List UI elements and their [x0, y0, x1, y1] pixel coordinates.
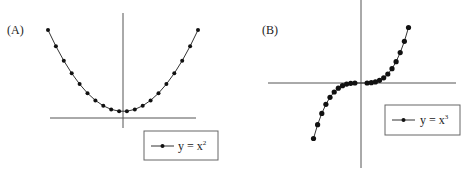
- data-point-marker: [352, 80, 357, 85]
- panel-b-cubic-chart: (B) y = x3: [262, 0, 460, 168]
- data-point-marker: [332, 89, 337, 94]
- data-point-marker: [133, 107, 137, 111]
- data-point-marker: [46, 28, 50, 32]
- data-point-marker: [311, 136, 316, 141]
- panel-b-legend-label: y = x3: [420, 113, 449, 127]
- data-point-marker: [180, 59, 184, 63]
- data-point-marker: [157, 91, 161, 95]
- data-point-marker: [149, 98, 153, 102]
- data-point-marker: [381, 75, 386, 80]
- data-point-marker: [86, 91, 90, 95]
- data-point-marker: [389, 66, 394, 71]
- data-point-marker: [78, 82, 82, 86]
- data-point-marker: [109, 107, 113, 111]
- data-point-marker: [196, 28, 200, 32]
- data-point-marker: [125, 109, 129, 113]
- data-point-marker: [319, 111, 324, 116]
- data-point-marker: [406, 25, 411, 30]
- panel-a-legend: y = x2: [144, 131, 218, 160]
- data-point-marker: [398, 50, 403, 55]
- data-point-marker: [70, 71, 74, 75]
- data-point-marker: [385, 71, 390, 76]
- data-point-marker: [164, 82, 168, 86]
- panel-b-legend-marker-icon: [402, 118, 406, 122]
- figure: (A) y = x2 (B) y = x3: [0, 0, 473, 173]
- data-point-marker: [188, 44, 192, 48]
- panel-b-label: (B): [262, 23, 278, 37]
- data-point-marker: [323, 102, 328, 107]
- panel-a-parabola-chart: (A) y = x2: [7, 13, 218, 160]
- data-point-marker: [172, 71, 176, 75]
- panel-a-legend-marker-icon: [161, 144, 165, 148]
- data-point-marker: [327, 95, 332, 100]
- data-point-marker: [402, 39, 407, 44]
- data-point-marker: [101, 104, 105, 108]
- data-point-marker: [62, 59, 66, 63]
- data-point-marker: [141, 104, 145, 108]
- data-point-marker: [117, 109, 121, 113]
- panel-a-label: (A): [7, 23, 24, 37]
- data-point-marker: [54, 44, 58, 48]
- data-point-marker: [93, 98, 97, 102]
- data-point-marker: [315, 122, 320, 127]
- panel-b-legend: y = x3: [385, 105, 460, 135]
- panel-a-legend-label: y = x2: [178, 139, 207, 153]
- data-point-marker: [394, 59, 399, 64]
